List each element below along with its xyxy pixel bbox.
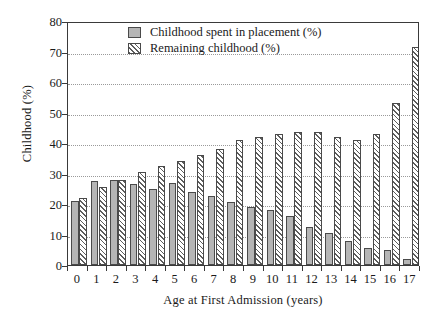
bar-remaining-age-8: [236, 140, 244, 265]
bar-remaining-age-12: [314, 132, 322, 265]
bar-group-age-6: [188, 23, 204, 265]
bar-chart: Childhood (%) 01020304050607080 01234567…: [0, 0, 436, 320]
bar-placement-age-1: [91, 181, 99, 265]
legend-item-2: Remaining childhood (%): [128, 41, 322, 56]
y-tick-label: 40: [22, 137, 62, 152]
bar-placement-age-13: [325, 233, 333, 265]
bar-group-age-15: [364, 23, 380, 265]
bar-placement-age-15: [364, 248, 372, 265]
x-tick-mark: [223, 266, 224, 271]
x-tick-mark: [204, 266, 205, 271]
bar-placement-age-3: [130, 184, 138, 265]
y-tick-label: 30: [22, 167, 62, 182]
bar-remaining-age-4: [158, 166, 166, 265]
bar-placement-age-16: [384, 250, 392, 265]
bar-group-age-10: [267, 23, 283, 265]
bar-remaining-age-15: [373, 134, 381, 265]
bar-group-age-7: [208, 23, 224, 265]
bar-group-age-1: [91, 23, 107, 265]
x-tick-mark: [419, 266, 420, 271]
x-tick-mark: [165, 266, 166, 271]
x-axis-title: Age at First Admission (years): [67, 293, 419, 308]
y-tick-label: 70: [22, 45, 62, 60]
legend-swatch-hatch: [128, 43, 141, 54]
x-tick-label-17: 17: [397, 272, 421, 287]
bar-placement-age-14: [345, 241, 353, 265]
bar-placement-age-8: [227, 202, 235, 265]
bar-placement-age-11: [286, 216, 294, 265]
x-tick-mark: [263, 266, 264, 271]
bar-remaining-age-5: [177, 161, 185, 265]
x-tick-mark: [380, 266, 381, 271]
bar-remaining-age-1: [99, 187, 107, 265]
bar-placement-age-17: [403, 259, 411, 265]
bar-remaining-age-10: [275, 134, 283, 265]
x-tick-mark: [321, 266, 322, 271]
x-tick-mark: [145, 266, 146, 271]
bar-remaining-age-2: [118, 180, 126, 265]
y-tick-label: 80: [22, 15, 62, 30]
bar-remaining-age-16: [392, 103, 400, 265]
x-tick-mark: [87, 266, 88, 271]
bar-group-age-2: [110, 23, 126, 265]
bar-remaining-age-13: [334, 137, 342, 265]
bar-group-age-14: [345, 23, 361, 265]
y-tick-label: 50: [22, 106, 62, 121]
legend-label: Childhood spent in placement (%): [150, 25, 322, 40]
x-tick-mark: [184, 266, 185, 271]
plot-area: [67, 22, 419, 266]
bar-remaining-age-0: [79, 198, 87, 265]
bar-group-age-16: [384, 23, 400, 265]
bar-placement-age-0: [71, 201, 79, 265]
bar-remaining-age-6: [197, 155, 205, 265]
bar-group-age-8: [227, 23, 243, 265]
y-tick-label: 60: [22, 76, 62, 91]
bar-remaining-age-14: [353, 140, 361, 265]
bar-group-age-11: [286, 23, 302, 265]
bar-group-age-12: [306, 23, 322, 265]
bars-layer: [68, 23, 418, 265]
bar-remaining-age-11: [294, 132, 302, 265]
bar-placement-age-5: [169, 183, 177, 265]
y-tick-label: 10: [22, 228, 62, 243]
bar-group-age-3: [130, 23, 146, 265]
y-tick-label: 0: [22, 259, 62, 274]
x-tick-mark: [126, 266, 127, 271]
bar-remaining-age-9: [255, 137, 263, 265]
x-tick-mark: [341, 266, 342, 271]
bar-remaining-age-7: [216, 149, 224, 265]
legend-label: Remaining childhood (%): [150, 41, 280, 56]
bar-group-age-5: [169, 23, 185, 265]
x-tick-mark: [106, 266, 107, 271]
bar-remaining-age-3: [138, 172, 146, 265]
x-tick-mark: [282, 266, 283, 271]
bar-placement-age-2: [110, 180, 118, 265]
bar-group-age-9: [247, 23, 263, 265]
bar-placement-age-7: [208, 196, 216, 265]
chart-legend: Childhood spent in placement (%)Remainin…: [128, 25, 322, 57]
bar-group-age-17: [403, 23, 419, 265]
bar-group-age-0: [71, 23, 87, 265]
legend-swatch-solid: [128, 27, 141, 38]
x-tick-mark: [67, 266, 68, 271]
bar-placement-age-12: [306, 227, 314, 265]
x-tick-mark: [399, 266, 400, 271]
bar-placement-age-6: [188, 192, 196, 265]
x-tick-mark: [360, 266, 361, 271]
bar-group-age-4: [149, 23, 165, 265]
x-tick-mark: [243, 266, 244, 271]
legend-item-1: Childhood spent in placement (%): [128, 25, 322, 40]
bar-placement-age-10: [267, 210, 275, 265]
x-tick-mark: [302, 266, 303, 271]
bar-group-age-13: [325, 23, 341, 265]
y-tick-label: 20: [22, 198, 62, 213]
bar-remaining-age-17: [412, 47, 419, 265]
bar-placement-age-9: [247, 207, 255, 265]
bar-placement-age-4: [149, 189, 157, 265]
